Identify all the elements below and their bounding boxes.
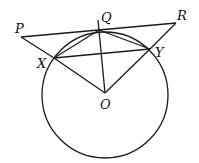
label-q: Q: [101, 10, 112, 25]
label-r: R: [176, 8, 187, 23]
label-p: P: [14, 21, 24, 36]
circle-o: [42, 32, 168, 158]
segment-xo: [54, 58, 105, 93]
label-o: O: [100, 97, 111, 112]
geometry-diagram: P Q R X Y O: [0, 0, 199, 163]
chord-qy: [99, 30, 150, 49]
diagram-canvas: P Q R X Y O: [0, 0, 199, 163]
segment-yo: [105, 49, 150, 93]
label-y: Y: [155, 45, 165, 60]
label-x: X: [36, 56, 47, 71]
segment-px: [21, 37, 54, 58]
